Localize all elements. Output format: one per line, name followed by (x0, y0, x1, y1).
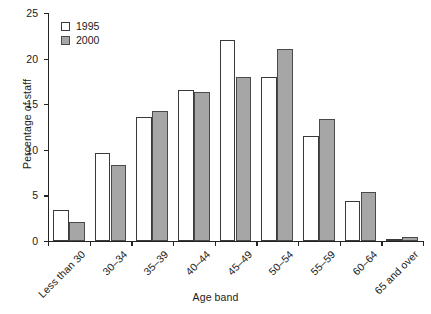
bar-1995-60–64 (345, 201, 361, 241)
legend-item-2000: 2000 (61, 34, 99, 47)
bar-1995-35–39 (136, 117, 152, 241)
y-axis-tick (44, 195, 48, 196)
bar-1995-less-than-30 (53, 210, 69, 241)
y-axis-tick (44, 104, 48, 105)
x-axis-tick (215, 242, 216, 246)
y-axis-line (48, 13, 49, 242)
y-axis-tick (44, 59, 48, 60)
bar-1995-30–34 (95, 153, 111, 241)
legend-label-1995: 1995 (76, 21, 99, 32)
y-axis-tick-label: 25 (26, 7, 38, 19)
bar-chart: Percentage of staff 0510152025 1995 2000… (0, 0, 431, 314)
x-axis-tick (340, 242, 341, 246)
x-axis-tick (298, 242, 299, 246)
y-axis-tick-label: 15 (26, 98, 38, 110)
bar-2000-50–54 (277, 49, 293, 241)
bar-1995-65-and-over (386, 239, 402, 241)
y-axis-tick-label: 5 (32, 189, 38, 201)
bar-2000-less-than-30 (69, 222, 85, 241)
bar-2000-40–44 (194, 92, 210, 241)
bar-1995-55–59 (303, 136, 319, 241)
y-axis-tick-label: 20 (26, 53, 38, 65)
bar-1995-40–44 (178, 90, 194, 241)
legend-item-1995: 1995 (61, 20, 99, 33)
bar-1995-45–49 (220, 40, 236, 241)
y-axis-tick (44, 150, 48, 151)
x-axis-tick (381, 242, 382, 246)
y-axis-title: Percentage of staff (21, 44, 33, 204)
legend-label-2000: 2000 (76, 35, 99, 46)
y-axis-tick-label: 0 (32, 235, 38, 247)
legend: 1995 2000 (61, 20, 99, 48)
bar-2000-30–34 (111, 165, 127, 241)
x-axis-tick (173, 242, 174, 246)
bar-2000-60–64 (361, 192, 377, 241)
x-axis-tick (90, 242, 91, 246)
bar-1995-50–54 (261, 77, 277, 241)
bar-2000-35–39 (152, 111, 168, 241)
x-axis-tick (423, 242, 424, 246)
x-axis-tick (48, 242, 49, 246)
legend-swatch-icon-2000 (61, 36, 70, 45)
y-axis-tick-label: 10 (26, 144, 38, 156)
plot-area: 0510152025 (48, 13, 423, 241)
bar-2000-55–59 (319, 119, 335, 241)
bar-2000-65-and-over (402, 237, 418, 241)
legend-swatch-icon-1995 (61, 22, 70, 31)
x-axis-tick (256, 242, 257, 246)
bar-2000-45–49 (236, 77, 252, 241)
x-axis-tick (131, 242, 132, 246)
y-axis-tick (44, 13, 48, 14)
